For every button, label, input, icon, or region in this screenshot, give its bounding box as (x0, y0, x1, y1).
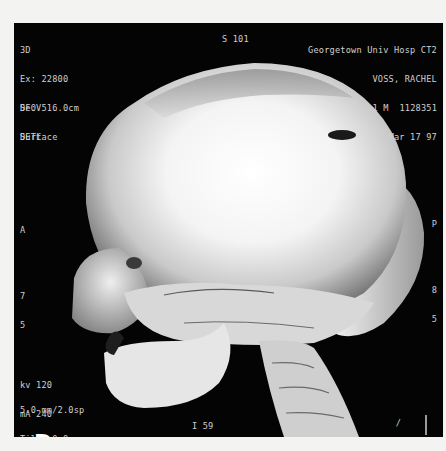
figure-panel-label: D (34, 432, 52, 437)
scale-tick (425, 415, 427, 435)
overlay-detail: DETL (20, 133, 79, 143)
orientation-left-value-2: 5 (20, 321, 42, 331)
overlay-tilt: Tilt: 0.0 (20, 435, 106, 437)
overlay-bottom-right-mark: / (396, 419, 401, 429)
overlay-dfov: DFOV 16.0cm (20, 104, 79, 114)
overlay-thickness: 5.0 mm/2.0sp (20, 406, 106, 416)
overlay-field-of-view: DFOV 16.0cm DETL (20, 85, 79, 162)
overlay-slice-position: S 101 (222, 35, 249, 45)
overlay-exam: Ex: 22800 (20, 75, 68, 85)
overlay-mode: 3D (20, 46, 68, 56)
orientation-right-value-2: 5 (416, 315, 438, 325)
orientation-left-value-1: 7 (20, 292, 42, 302)
overlay-patient-name: VOSS, RACHEL (308, 75, 437, 85)
ct-image-panel: 3D Ex: 22800 Se: 5 Surface S 101 Georget… (14, 23, 443, 437)
overlay-orientation-right: P 8 5 (416, 201, 438, 344)
orientation-anterior: A (20, 226, 42, 236)
overlay-orientation-left: A 7 5 (20, 207, 42, 350)
orientation-posterior: P (416, 220, 438, 230)
overlay-institution: Georgetown Univ Hosp CT2 (308, 46, 437, 56)
overlay-date: Mar 17 97 (308, 133, 437, 143)
overlay-patient-id: F 1 M 1128351 (308, 104, 437, 114)
overlay-inferior-position: I 59 (192, 422, 214, 432)
overlay-patient-info: Georgetown Univ Hosp CT2 VOSS, RACHEL F … (308, 27, 437, 161)
overlay-scan-params: 5.0 mm/2.0sp Tilt: 0.0 20:49 PM 1768 L =… (20, 387, 106, 437)
orientation-right-value-1: 8 (416, 286, 438, 296)
